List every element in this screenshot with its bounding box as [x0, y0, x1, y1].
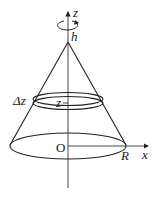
cone-right-edge: [68, 42, 126, 145]
slice-height-label: z: [55, 95, 61, 110]
slice-thickness-label: Δz: [12, 93, 26, 108]
origin-label: O: [56, 140, 65, 155]
x-axis-label: x: [141, 147, 148, 162]
cone-figure: z h Δz z O R x: [0, 0, 156, 198]
cone-diagram: z h Δz z O R x: [0, 0, 156, 198]
apex-label: h: [71, 29, 78, 44]
radius-label: R: [120, 148, 129, 163]
z-axis-label: z: [72, 5, 78, 20]
